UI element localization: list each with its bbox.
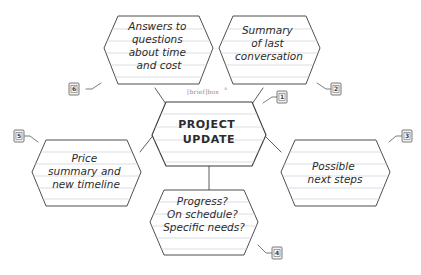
- trademark-symbol: ®: [224, 87, 228, 91]
- node-center[interactable]: PROJECT UPDATE: [152, 102, 266, 166]
- node-top-left[interactable]: Answers to questions about time and cost: [104, 16, 213, 84]
- badge-2[interactable]: 2: [331, 83, 341, 95]
- node-right[interactable]: Possible next steps: [281, 140, 390, 206]
- badge-3-text: 3: [405, 132, 409, 139]
- brandmark-briefbox: [brief]box: [187, 88, 219, 95]
- badge-6[interactable]: 6: [69, 83, 79, 95]
- badge-4[interactable]: 4: [272, 247, 282, 259]
- badge-4-text: 4: [275, 249, 279, 256]
- node-right-label: Possible next steps: [308, 160, 363, 185]
- badge-6-text: 6: [72, 85, 76, 92]
- node-top-right[interactable]: Summary of last conversation: [219, 16, 320, 84]
- badge-2-text: 2: [334, 85, 338, 92]
- badge-5[interactable]: 5: [14, 130, 24, 142]
- mind-map-canvas: Answers to questions about time and cost…: [0, 0, 421, 275]
- node-bottom[interactable]: Progress? On schedule? Specific needs?: [150, 190, 258, 255]
- badge-1[interactable]: 1: [277, 91, 287, 103]
- badge-5-text: 5: [17, 132, 21, 139]
- badge-3[interactable]: 3: [402, 130, 412, 142]
- badge-1-text: 1: [280, 93, 284, 100]
- node-top-left-label: Answers to questions about time and cost: [127, 20, 189, 71]
- node-left[interactable]: Price summary and new timeline: [32, 140, 141, 206]
